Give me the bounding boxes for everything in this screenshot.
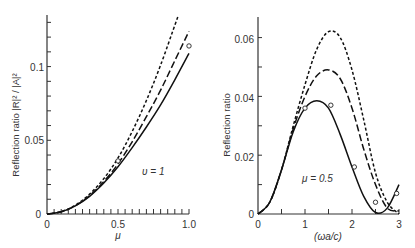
- right-x-tick-0: 0: [255, 219, 261, 230]
- left-y-tick-0.1: 0.1: [30, 62, 44, 73]
- left-x-ticks: [54, 209, 189, 214]
- curve-short-dash: [47, 15, 178, 214]
- left-x-tick-1.0: 1.0: [182, 219, 196, 230]
- right-y-axis-label: Reflection ratio: [221, 93, 232, 156]
- left-curves: [47, 15, 191, 214]
- curve-long-dash: [258, 70, 399, 214]
- data-point-circle: [373, 200, 377, 204]
- right-y-tick-0: 0: [248, 209, 254, 220]
- data-point-circle: [303, 106, 307, 110]
- figure: 0 0.05 0.1 0 0.5 1.0 μ Reflection ratio …: [0, 0, 415, 248]
- data-point-circle: [187, 44, 191, 48]
- curve-solid: [47, 53, 189, 214]
- curve-short-dash: [258, 31, 399, 214]
- left-annotation: υ = 1: [142, 166, 164, 177]
- right-y-tick-0.06: 0.06: [235, 34, 255, 45]
- right-y-tick-0.02: 0.02: [235, 152, 255, 163]
- data-point-circle: [116, 159, 120, 163]
- right-y-tick-0.04: 0.04: [235, 93, 255, 104]
- right-x-axis-label: (ωa/c): [314, 231, 342, 242]
- right-annotation: μ = 0.5: [301, 173, 333, 184]
- left-y-tick-0: 0: [35, 209, 41, 220]
- right-curves: [258, 31, 399, 214]
- left-chart: 0 0.05 0.1 0 0.5 1.0 μ Reflection ratio …: [10, 15, 196, 241]
- data-point-circle: [329, 103, 333, 107]
- left-x-tick-0: 0: [44, 219, 50, 230]
- right-chart: 0 0.02 0.04 0.06 0 1 2 3 (ωa/c) Reflecti…: [221, 17, 402, 242]
- right-x-tick-3: 3: [396, 219, 402, 230]
- data-point-circle: [352, 165, 356, 169]
- left-y-axis-label: Reflection ratio |R|² / |A|²: [10, 73, 21, 176]
- right-x-tick-1: 1: [302, 219, 308, 230]
- left-y-tick-0.05: 0.05: [25, 135, 45, 146]
- left-x-tick-0.5: 0.5: [111, 219, 125, 230]
- curve-solid: [258, 101, 399, 214]
- data-point-circle: [394, 191, 398, 195]
- left-x-axis-label: μ: [114, 230, 121, 241]
- right-x-tick-2: 2: [349, 219, 355, 230]
- curve-long-dash: [47, 31, 189, 214]
